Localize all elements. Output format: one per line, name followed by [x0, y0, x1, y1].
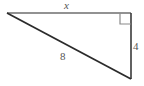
- label-vertical-leg: 4: [133, 41, 139, 52]
- right-angle-marker-icon: [120, 13, 131, 24]
- label-top-leg: x: [64, 0, 69, 11]
- right-triangle-figure: x 4 8: [0, 0, 144, 86]
- label-hypotenuse: 8: [60, 51, 66, 62]
- triangle-drawing: [0, 0, 144, 86]
- triangle-hypotenuse: [7, 13, 131, 79]
